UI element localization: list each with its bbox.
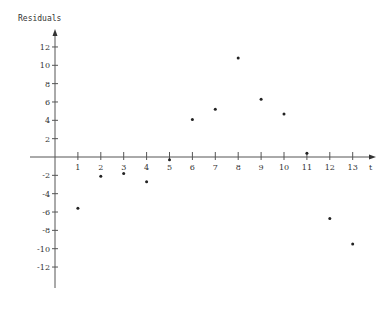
x-tick-label: 7 <box>213 163 218 172</box>
y-tick-label: 12 <box>40 43 50 52</box>
data-point <box>76 207 79 210</box>
data-point <box>214 108 217 111</box>
x-tick-label: 13 <box>348 163 358 172</box>
x-tick-label: 3 <box>121 163 126 172</box>
data-point <box>260 98 263 101</box>
y-tick-label: -12 <box>37 263 50 272</box>
y-tick-label: -4 <box>42 190 50 199</box>
x-axis-arrow-icon <box>369 155 376 160</box>
data-point <box>283 112 286 115</box>
x-tick-label: 11 <box>302 163 312 172</box>
y-tick-label: 10 <box>40 61 50 70</box>
x-axis-label: t <box>369 163 373 172</box>
y-tick-label: -2 <box>42 171 50 180</box>
y-tick-label: -10 <box>37 245 50 254</box>
x-tick-label: 1 <box>75 163 80 172</box>
data-point <box>122 172 125 175</box>
y-axis-arrow-icon <box>53 29 58 36</box>
data-point <box>305 152 308 155</box>
x-tick-label: 4 <box>144 163 149 172</box>
y-tick-label: 8 <box>45 80 50 89</box>
y-tick-label: 2 <box>45 135 50 144</box>
y-tick-label: -8 <box>42 226 50 235</box>
data-point <box>191 118 194 121</box>
data-point <box>145 180 148 183</box>
y-tick-label: 6 <box>45 98 50 107</box>
x-tick-label: 2 <box>98 163 103 172</box>
x-tick-label: 12 <box>325 163 335 172</box>
data-point <box>351 243 354 246</box>
x-axis <box>30 155 376 160</box>
x-tick-label: 8 <box>236 163 241 172</box>
y-tick-label: -6 <box>42 208 50 217</box>
y-tick-label: 4 <box>45 116 50 125</box>
data-point <box>328 217 331 220</box>
x-tick-label: 9 <box>259 163 264 172</box>
data-points <box>76 56 354 245</box>
x-tick-label: 10 <box>279 163 289 172</box>
residuals-scatter-chart: Residuals t 12108642-2-4-6-8-10-12 12345… <box>0 0 391 309</box>
y-axis-label: Residuals <box>18 14 62 23</box>
data-point <box>99 175 102 178</box>
data-point <box>168 158 171 161</box>
x-tick-label: 5 <box>167 163 172 172</box>
data-point <box>237 56 240 59</box>
x-tick-label: 6 <box>190 163 195 172</box>
x-ticks: 12345678910111213 <box>75 152 357 172</box>
